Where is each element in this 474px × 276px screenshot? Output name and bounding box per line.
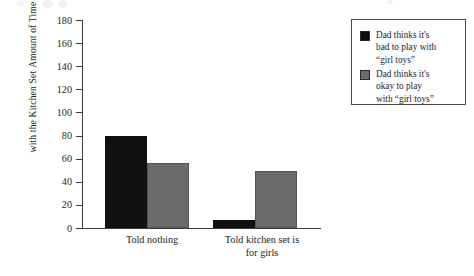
legend-label-0: Dad thinks it's bad to play with “girl t… [376, 29, 436, 66]
y-tick-120: 120 [76, 89, 82, 90]
legend-label-1: Dad thinks it's okay to play with “girl … [376, 68, 434, 105]
y-tick-label-60: 60 [62, 154, 72, 164]
x-category-label-1-line-2: for girls [207, 247, 317, 260]
legend-swatch-gray-icon [360, 70, 370, 80]
bar-group2-series1 [213, 220, 255, 228]
x-category-label-0-line-1: Told nothing [110, 234, 194, 247]
y-axis-label: Amount of Time Spent Playing with the Ki… [13, 0, 53, 143]
y-axis-line [82, 20, 83, 228]
x-category-label-0: Told nothing [110, 234, 194, 247]
y-tick-label-100: 100 [57, 108, 72, 118]
y-tick-label-80: 80 [62, 131, 72, 141]
y-axis-label-line-2: with the Kitchen Set [28, 71, 38, 153]
bar-chart-figure: Amount of Time Spent Playing with the Ki… [0, 0, 474, 276]
bar-group1-series2 [147, 163, 189, 228]
y-tick-0: 0 [76, 228, 82, 229]
y-tick-100: 100 [76, 112, 82, 113]
y-tick-40: 40 [76, 182, 82, 183]
bar-group1-series1 [105, 136, 147, 228]
legend-item-0: Dad thinks it's bad to play with “girl t… [360, 29, 436, 66]
y-tick-180: 180 [76, 20, 82, 21]
x-category-label-1: Told kitchen set is for girls [207, 234, 317, 259]
y-tick-20: 20 [76, 205, 82, 206]
legend-item-1: Dad thinks it's okay to play with “girl … [360, 68, 434, 105]
legend-swatch-black-icon [360, 31, 370, 41]
y-tick-160: 160 [76, 43, 82, 44]
y-tick-140: 140 [76, 66, 82, 67]
scan-artifact [387, 0, 393, 4]
y-tick-label-0: 0 [67, 223, 72, 233]
y-tick-label-120: 120 [57, 85, 72, 95]
y-tick-label-40: 40 [62, 177, 72, 187]
y-tick-label-180: 180 [57, 15, 72, 25]
bar-group2-series2 [255, 171, 297, 228]
x-axis-line [76, 228, 321, 229]
y-tick-label-140: 140 [57, 62, 72, 72]
y-tick-label-20: 20 [62, 200, 72, 210]
legend-box: Dad thinks it's bad to play with “girl t… [351, 19, 466, 105]
scan-artifact [58, 0, 68, 8]
y-tick-label-160: 160 [57, 38, 72, 48]
plot-area: 180 160 140 120 100 80 60 40 20 0 [82, 20, 320, 228]
y-tick-60: 60 [76, 159, 82, 160]
y-tick-80: 80 [76, 136, 82, 137]
y-axis-label-line-1: Amount of Time Spent Playing [28, 0, 38, 68]
x-category-label-1-line-1: Told kitchen set is [207, 234, 317, 247]
